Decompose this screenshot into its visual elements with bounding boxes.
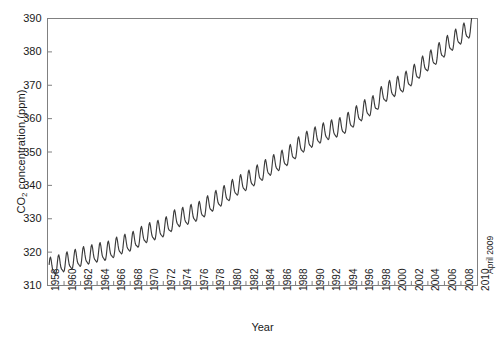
- april-2009-annotation: April 2009: [486, 236, 495, 274]
- axes-frame: [48, 19, 478, 286]
- chart-figure: CO2 concentration (ppm) 3103203303403503…: [0, 0, 497, 339]
- co2-data-line: [49, 19, 471, 275]
- plot-area: [0, 0, 497, 339]
- tick-marks: [48, 19, 478, 286]
- x-axis-title: Year: [47, 321, 478, 333]
